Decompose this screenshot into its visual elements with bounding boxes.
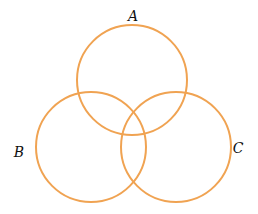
label-b: B <box>13 144 24 160</box>
circle-c <box>121 92 231 202</box>
label-a: A <box>126 8 138 24</box>
circle-a <box>77 25 187 135</box>
label-c: C <box>233 140 244 156</box>
circle-b <box>36 92 146 202</box>
venn-diagram: A B C <box>0 0 258 214</box>
